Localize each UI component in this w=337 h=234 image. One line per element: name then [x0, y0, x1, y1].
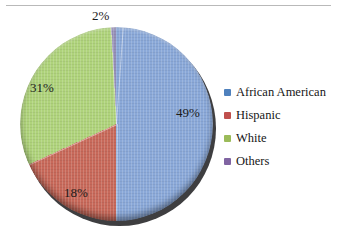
chart-legend: African AmericanHispanicWhiteOthers — [224, 86, 326, 168]
slice-divider — [116, 27, 124, 124]
slice-label-white: 31% — [30, 81, 54, 94]
legend-swatch-icon — [224, 89, 231, 96]
slice-divider — [110, 27, 116, 124]
pie-disc — [20, 27, 213, 221]
top-divider-rule — [6, 5, 331, 6]
legend-swatch-icon — [224, 135, 231, 142]
slice-divider — [28, 124, 116, 166]
slice-label-african-american: 49% — [176, 106, 200, 119]
slice-label-others: 2% — [92, 9, 109, 22]
legend-item-label: White — [236, 132, 267, 145]
legend-item-african-american[interactable]: African American — [224, 86, 326, 99]
pie-graphic — [20, 27, 216, 226]
pie-chart-figure: 49% 18% 31% 2% African AmericanHispanicW… — [0, 0, 337, 234]
legend-item-white[interactable]: White — [224, 132, 326, 145]
legend-swatch-icon — [224, 158, 231, 165]
legend-item-label: Others — [236, 155, 269, 168]
legend-swatch-icon — [224, 112, 231, 119]
slice-label-hispanic: 18% — [64, 186, 88, 199]
pie-slices — [20, 27, 213, 221]
legend-item-label: African American — [236, 86, 326, 99]
slice-divider — [116, 124, 118, 221]
legend-item-hispanic[interactable]: Hispanic — [224, 109, 326, 122]
legend-item-others[interactable]: Others — [224, 155, 326, 168]
legend-item-label: Hispanic — [236, 109, 280, 122]
